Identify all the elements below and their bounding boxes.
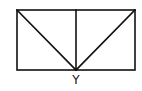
point-label-y: Y (71, 73, 80, 87)
right-diagonal (76, 10, 135, 70)
left-diagonal (17, 10, 76, 70)
diagram-canvas: Y (0, 0, 142, 91)
